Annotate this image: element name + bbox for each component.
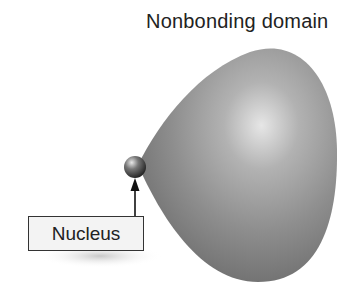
nucleus-sphere <box>124 156 146 178</box>
nucleus-label-box: Nucleus <box>28 216 144 251</box>
diagram-canvas <box>0 0 361 296</box>
nucleus-label: Nucleus <box>52 223 121 245</box>
nonbonding-domain-lobe <box>138 48 337 282</box>
arrow-head-icon <box>131 178 140 191</box>
